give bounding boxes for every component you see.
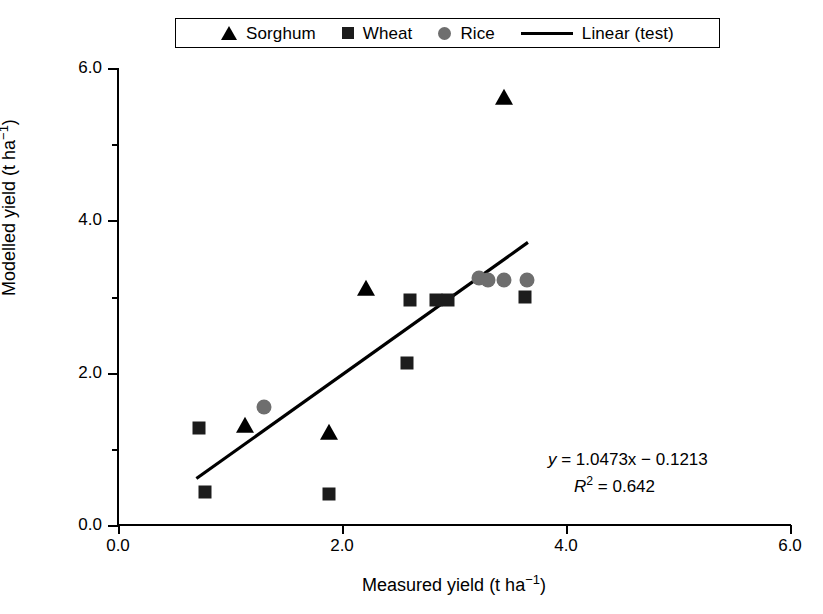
data-point-rice — [519, 272, 534, 287]
y-tick-label: 0.0 — [78, 515, 102, 535]
x-tick-label: 4.0 — [554, 536, 578, 556]
x-tick-major — [790, 525, 792, 534]
data-point-sorghum — [357, 280, 375, 296]
data-point-rice — [497, 272, 512, 287]
y-tick-major — [108, 220, 118, 222]
y-tick-label: 2.0 — [78, 363, 102, 383]
circle-icon — [438, 27, 451, 40]
data-point-wheat — [518, 291, 531, 304]
x-tick-label: 2.0 — [330, 536, 354, 556]
x-tick-major — [118, 525, 120, 534]
r-squared-body: = 0.642 — [593, 476, 655, 495]
y-tick-major — [108, 68, 118, 70]
data-point-wheat — [430, 294, 443, 307]
x-tick-major — [566, 525, 568, 534]
line-icon — [521, 32, 573, 35]
data-point-wheat — [192, 422, 205, 435]
data-point-wheat — [404, 294, 417, 307]
equation-body: = 1.0473x − 0.1213 — [557, 450, 708, 469]
triangle-icon — [221, 26, 237, 40]
chart-legend: Sorghum Wheat Rice Linear (test) — [175, 18, 720, 48]
legend-label-sorghum: Sorghum — [246, 25, 316, 42]
y-tick-major — [108, 373, 118, 375]
x-tick-major — [342, 525, 344, 534]
legend-label-rice: Rice — [460, 25, 494, 42]
data-point-rice — [480, 272, 495, 287]
legend-item-rice: Rice — [438, 25, 494, 42]
legend-item-linear-test: Linear (test) — [521, 25, 674, 42]
y-tick-label: 4.0 — [78, 210, 102, 230]
x-axis-title-text: Measured yield (t ha — [362, 575, 525, 595]
r-symbol: R — [574, 476, 586, 495]
x-tick-label: 6.0 — [778, 536, 802, 556]
y-axis-title: Modelled yield (t ha−1) — [0, 0, 20, 296]
data-point-wheat — [322, 487, 335, 500]
x-axis-title-superscript: −1 — [525, 572, 540, 587]
r-squared-line: R2 = 0.642 — [548, 473, 708, 499]
data-point-sorghum — [236, 417, 254, 433]
y-tick-major — [108, 525, 118, 527]
data-point-sorghum — [495, 89, 513, 105]
equation-y-symbol: y — [548, 450, 557, 469]
legend-label-wheat: Wheat — [363, 25, 413, 42]
y-axis-title-text: Modelled yield (t ha — [0, 140, 19, 296]
legend-label-linear-test: Linear (test) — [582, 25, 674, 42]
x-tick-label: 0.0 — [106, 536, 130, 556]
legend-item-wheat: Wheat — [342, 25, 413, 42]
regression-annotation: y = 1.0473x − 0.1213 R2 = 0.642 — [548, 448, 708, 499]
data-point-wheat — [199, 486, 212, 499]
y-axis-title-tail: ) — [0, 119, 19, 125]
legend-item-sorghum: Sorghum — [221, 25, 316, 42]
data-point-wheat — [442, 293, 455, 306]
data-point-wheat — [400, 356, 413, 369]
x-axis-title: Measured yield (t ha−1) — [118, 572, 790, 596]
square-icon — [342, 27, 354, 39]
y-axis-title-superscript: −1 — [0, 125, 11, 140]
y-tick-label: 6.0 — [78, 58, 102, 78]
x-axis-title-tail: ) — [540, 575, 546, 595]
data-point-rice — [256, 399, 271, 414]
data-point-sorghum — [320, 424, 338, 440]
equation-line: y = 1.0473x − 0.1213 — [548, 448, 708, 473]
scatter-plot-figure: Sorghum Wheat Rice Linear (test) 0.02.04… — [0, 0, 823, 614]
